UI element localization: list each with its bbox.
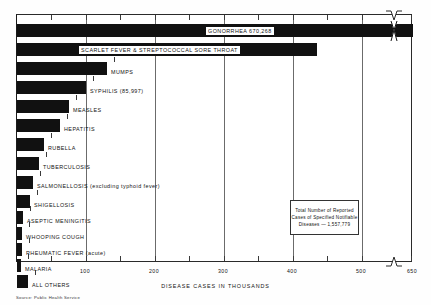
callout-line-1: Total Number of Reported	[295, 208, 354, 213]
chart-page: GONORRHEA 670,268 SCARLET FEVER & STREPT…	[0, 0, 431, 305]
xtick-label-400: 400	[287, 268, 297, 274]
label-stem	[51, 133, 52, 138]
xtick-label-650: 650	[407, 268, 417, 274]
xtick-label-200: 200	[149, 268, 159, 274]
bar-label: HEPATITIS	[64, 125, 95, 134]
tick-top-300	[224, 15, 225, 20]
bar-label: SALMONELLOSIS (excluding typhoid fever)	[37, 182, 160, 191]
bar-label: RUBELLA	[48, 144, 76, 153]
bar-label: TUBERCULOSIS	[43, 163, 90, 172]
bar-rubella	[17, 138, 44, 151]
bar-label: WHOOPING COUGH	[26, 233, 84, 242]
label-stem	[114, 57, 115, 62]
tick-top-500	[362, 15, 363, 20]
xtick-label-500: 500	[356, 268, 366, 274]
bar-measles	[17, 100, 69, 113]
label-stem	[30, 206, 31, 211]
xtick-label-300: 300	[218, 268, 228, 274]
tick-bottom-650	[411, 256, 412, 261]
label-stem	[37, 190, 38, 195]
label-stem	[76, 95, 77, 100]
label-stem	[93, 76, 94, 81]
bar-salmonellosis	[17, 176, 33, 189]
tick-top-150	[120, 15, 121, 20]
bar-tuberculosis	[17, 157, 39, 170]
bar-label: SHIGELLOSIS	[34, 201, 75, 210]
bar-label: MALARIA	[25, 265, 52, 274]
tick-top-400	[293, 15, 294, 20]
source-note: Source: Public Health Service	[16, 295, 80, 300]
bar-hepatitis	[17, 119, 60, 132]
bar-label: SCARLET FEVER & STREPTOCOCCAL SORE THROA…	[78, 45, 241, 55]
tick-top-250	[189, 15, 190, 20]
bar-malaria	[17, 259, 21, 272]
tick-bottom-400	[293, 256, 294, 261]
tick-bottom-350	[258, 256, 259, 261]
axis-break-bar-icon	[386, 21, 402, 41]
tick-bottom-150	[120, 256, 121, 261]
bar-label: RHEUMATIC FEVER (acute)	[26, 249, 106, 258]
label-stem	[28, 254, 29, 259]
tick-bottom-450	[327, 256, 328, 261]
axis-break-bottom-icon	[386, 255, 402, 267]
tick-bottom-250	[189, 256, 190, 261]
tick-bottom-500	[362, 256, 363, 261]
tick-top-100	[86, 15, 87, 20]
label-stem	[29, 222, 30, 227]
tick-top-50	[51, 15, 52, 20]
bar-rheumatic-fever	[17, 243, 22, 256]
bar-label: MEASLES	[73, 106, 102, 115]
bar-label: GONORRHEA 670,268	[205, 26, 275, 36]
tick-top-200	[155, 15, 156, 20]
label-stem	[46, 152, 47, 157]
bar-syphilis	[17, 81, 86, 94]
tick-top-650	[411, 15, 412, 20]
total-cases-callout: Total Number of Reported Cases of Specif…	[290, 200, 359, 235]
label-stem	[40, 171, 41, 176]
label-stem	[67, 114, 68, 119]
tick-bottom-200	[155, 256, 156, 261]
tick-top-450	[327, 15, 328, 20]
xtick-label-100: 100	[80, 268, 90, 274]
label-stem	[29, 238, 30, 243]
callout-line-3: Diseases — 1,557,779	[299, 222, 350, 227]
bar-label: MUMPS	[111, 68, 133, 77]
tick-top-350	[258, 15, 259, 20]
callout-line-2: Cases of Specified Notifiable	[292, 215, 358, 220]
bar-label: SYPHILIS (85,997)	[90, 87, 144, 96]
bar-whooping-cough	[17, 227, 22, 240]
gridline-500	[362, 15, 363, 261]
bar-shigellosis	[17, 195, 30, 208]
tick-bottom-300	[224, 256, 225, 261]
bar-aseptic-meningitis	[17, 211, 23, 224]
bar-label: ASEPTIC MENINGITIS	[27, 217, 91, 226]
label-stem	[35, 270, 36, 275]
bar-mumps	[17, 62, 107, 75]
x-axis-title: DISEASE CASES IN THOUSANDS	[0, 283, 431, 289]
